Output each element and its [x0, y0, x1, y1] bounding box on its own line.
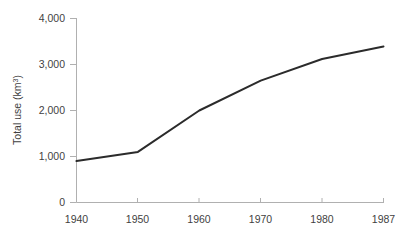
y-tick-label-2000: 2,000 — [39, 104, 65, 116]
y-tick-label-1000: 1,000 — [39, 150, 65, 162]
chart-canvas: 4,000 3,000 2,000 1,000 0 1940 1950 1960… — [0, 0, 405, 238]
x-tick-label-1970: 1970 — [249, 213, 273, 225]
y-tick-label-4000: 4,000 — [39, 12, 65, 24]
x-tick-label-1987: 1987 — [372, 213, 396, 225]
x-tick-label-1940: 1940 — [65, 213, 89, 225]
y-tick-label-0: 0 — [59, 196, 65, 208]
y-axis-title-close: ) — [11, 75, 23, 79]
x-tick-label-1950: 1950 — [126, 213, 150, 225]
x-tick-label-1980: 1980 — [310, 213, 334, 225]
y-axis-title-base: Total use (km — [11, 82, 23, 145]
x-tick-label-1960: 1960 — [187, 213, 211, 225]
line-chart: 4,000 3,000 2,000 1,000 0 1940 1950 1960… — [0, 0, 405, 238]
y-tick-label-3000: 3,000 — [39, 58, 65, 70]
y-axis-title: Total use (km3) — [11, 75, 23, 145]
